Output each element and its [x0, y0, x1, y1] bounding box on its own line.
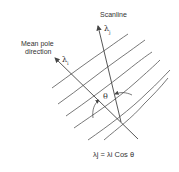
mean-pole-label-2: direction — [25, 48, 51, 56]
mean-pole-label-1: Mean pole — [21, 40, 54, 48]
diagram-canvas: Scanline λj Mean pole direction λi θ λj … — [0, 0, 179, 172]
pole-direction-arrow — [55, 58, 138, 139]
theta-label: θ — [103, 92, 108, 101]
joint-lines — [52, 34, 170, 140]
scanline-arrow — [98, 26, 121, 122]
scanline-label: Scanline — [100, 11, 127, 19]
lambda-j-label: λj — [104, 24, 111, 35]
angle-arc-left — [93, 100, 99, 118]
diagram-svg — [0, 0, 179, 172]
lambda-i-label: λi — [62, 55, 69, 66]
formula-label: λj = λi Cos θ — [93, 151, 134, 159]
